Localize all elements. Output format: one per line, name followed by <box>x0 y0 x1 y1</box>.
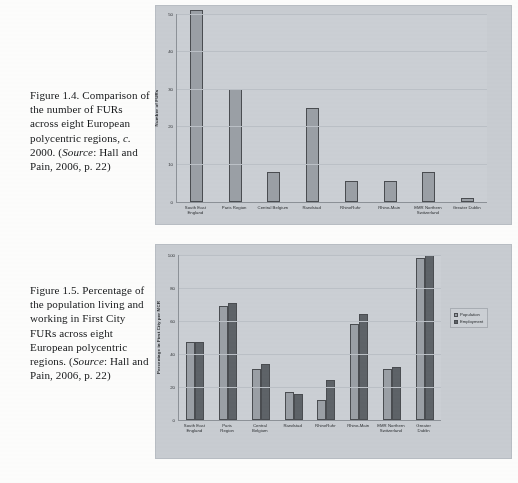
figure-1-5-caption-source-word: Source <box>73 355 104 367</box>
bar-group <box>371 14 410 202</box>
bar-group <box>255 14 294 202</box>
figure-1-4-caption-source-word: Source <box>62 146 93 158</box>
bar <box>422 172 435 202</box>
figure-1-4-caption: Figure 1.4. Comparison of the number of … <box>30 88 152 173</box>
figure-1-5-legend: PopulationEmployment <box>450 308 488 328</box>
bar-group <box>343 255 376 420</box>
y-axis-tick-label: 50 <box>161 12 173 17</box>
y-axis-tick-label: 0 <box>163 418 175 423</box>
bar <box>294 394 303 420</box>
figure-1-5-chart: Percentage in First City per MCR Populat… <box>155 244 512 459</box>
bar <box>306 108 319 202</box>
bar-group <box>179 255 212 420</box>
figure-1-4-plot-area <box>176 14 487 203</box>
bar <box>285 392 294 420</box>
bar-group <box>177 14 216 202</box>
bar <box>461 198 474 202</box>
y-axis-tick-label: 10 <box>161 162 173 167</box>
bar <box>416 258 425 420</box>
bar <box>219 306 228 420</box>
bar-group <box>410 14 449 202</box>
bar-group <box>277 255 310 420</box>
y-axis-tick-label: 80 <box>163 286 175 291</box>
figure-1-5-bars <box>179 255 441 420</box>
bar <box>425 255 434 420</box>
bar-group <box>212 255 245 420</box>
bar-group <box>245 255 278 420</box>
y-axis-tick-label: 100 <box>163 253 175 258</box>
gridline <box>179 387 441 388</box>
gridline <box>177 126 487 127</box>
gridline <box>177 89 487 90</box>
bar-group <box>332 14 371 202</box>
bar-group <box>293 14 332 202</box>
bar <box>252 369 261 420</box>
gridline <box>177 164 487 165</box>
figure-1-5-caption: Figure 1.5. Percentage of the population… <box>30 283 152 382</box>
gridline <box>179 255 441 256</box>
figure-1-5-y-axis-title: Percentage in First City per MCR <box>156 255 161 420</box>
bar <box>261 364 270 420</box>
bar <box>384 181 397 202</box>
bar <box>350 324 359 420</box>
y-axis-tick-label: 0 <box>161 200 173 205</box>
y-axis-tick-label: 20 <box>161 124 173 129</box>
y-axis-tick-label: 40 <box>161 49 173 54</box>
gridline <box>179 321 441 322</box>
bar <box>190 10 203 202</box>
y-axis-tick-label: 30 <box>161 87 173 92</box>
figure-1-4-y-axis-title: Number of FURs <box>154 14 159 202</box>
bar-group <box>376 255 409 420</box>
legend-swatch-icon <box>454 320 458 324</box>
legend-item: Population <box>454 312 483 317</box>
bar-group <box>310 255 343 420</box>
bar-group <box>408 255 441 420</box>
figure-1-4-caption-circa: c. <box>123 132 131 144</box>
figure-1-4-chart: Number of FURs 01020304050South East Eng… <box>155 5 512 225</box>
bar <box>267 172 280 202</box>
scanned-book-page: Figure 1.4. Comparison of the number of … <box>0 0 518 483</box>
figure-1-4-caption-mid: 2000. ( <box>30 146 62 158</box>
bar-group <box>448 14 487 202</box>
bar <box>383 369 392 420</box>
figure-1-4-caption-lead: Figure 1.4. Comparison of the number of … <box>30 89 150 144</box>
legend-item: Employment <box>454 319 483 324</box>
legend-swatch-icon <box>454 313 458 317</box>
x-axis-tick-label: Greater Dublin <box>443 205 490 210</box>
bar <box>359 314 368 420</box>
gridline <box>179 354 441 355</box>
figure-1-4-bars <box>177 14 487 202</box>
figure-1-5-plot-area <box>178 255 441 421</box>
y-axis-tick-label: 40 <box>163 352 175 357</box>
gridline <box>179 288 441 289</box>
y-axis-tick-label: 60 <box>163 319 175 324</box>
bar-group <box>216 14 255 202</box>
legend-label: Population <box>460 312 480 317</box>
bar <box>345 181 358 202</box>
bar <box>392 367 401 420</box>
gridline <box>177 51 487 52</box>
y-axis-tick-label: 20 <box>163 385 175 390</box>
legend-label: Employment <box>460 319 483 324</box>
x-axis-tick-label: Greater Dublin <box>403 423 444 434</box>
bar <box>229 89 242 202</box>
bar <box>317 400 326 420</box>
gridline <box>177 14 487 15</box>
